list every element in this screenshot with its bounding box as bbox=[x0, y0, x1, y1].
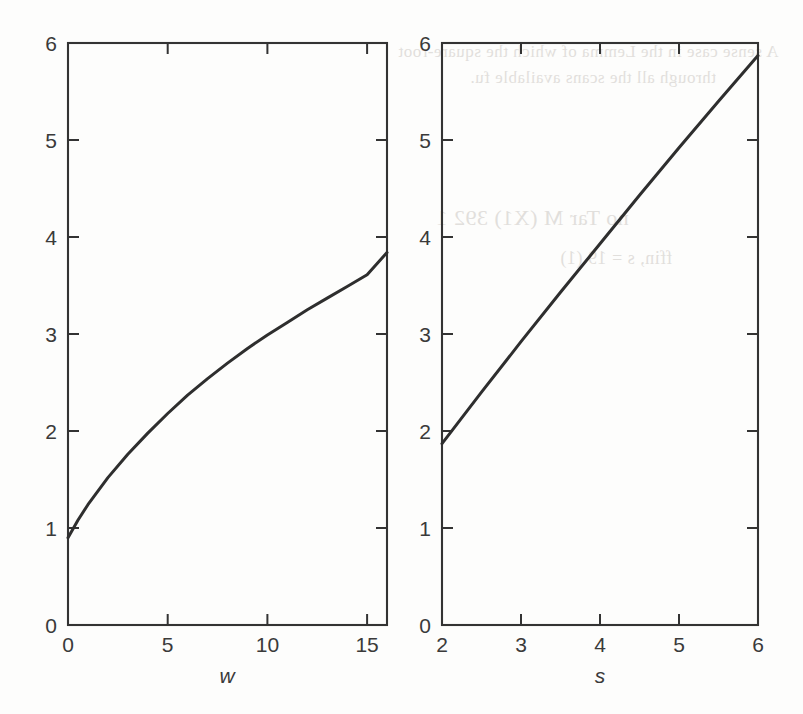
right-y-tick-marks bbox=[442, 140, 758, 528]
right-ytick-label-4: 4 bbox=[419, 226, 431, 249]
right-ytick-label-1: 1 bbox=[419, 517, 431, 540]
right-ytick-label-3: 3 bbox=[419, 323, 431, 346]
right-x-axis-title: s bbox=[595, 664, 606, 687]
right-ytick-label-5: 5 bbox=[419, 129, 431, 152]
right-data-curve bbox=[442, 56, 758, 444]
right-ytick-label-0: 0 bbox=[419, 614, 431, 637]
right-xtick-label-4: 4 bbox=[594, 633, 606, 656]
figure-page: A sense case in the Lemma of which the s… bbox=[0, 0, 803, 714]
right-ytick-label-6: 6 bbox=[419, 32, 431, 55]
right-plot-panel: 0 1 2 3 4 5 6 2 3 4 5 6 s bbox=[0, 0, 803, 714]
right-x-tick-marks bbox=[521, 43, 679, 625]
right-xtick-label-2: 2 bbox=[436, 633, 448, 656]
right-plot-frame bbox=[442, 43, 758, 625]
right-xtick-label-6: 6 bbox=[752, 633, 764, 656]
right-xtick-label-5: 5 bbox=[673, 633, 685, 656]
right-xtick-label-3: 3 bbox=[515, 633, 527, 656]
right-ytick-label-2: 2 bbox=[419, 420, 431, 443]
